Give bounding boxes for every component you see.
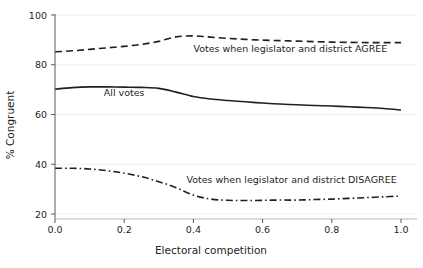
x-tick-label-0.6: 0.6: [255, 224, 270, 235]
series-annotation-1: All votes: [104, 87, 145, 98]
x-tick-label-0.0: 0.0: [47, 224, 62, 235]
y-tick-label-100: 100: [29, 10, 47, 21]
x-tick-label-0.8: 0.8: [324, 224, 339, 235]
y-tick-label-40: 40: [35, 159, 47, 170]
x-tick-label-0.4: 0.4: [186, 224, 201, 235]
x-tick-label-0.2: 0.2: [117, 224, 132, 235]
y-tick-label-80: 80: [35, 59, 47, 70]
y-tick-label-20: 20: [35, 209, 47, 220]
y-axis-title: % Congruent: [4, 91, 16, 160]
x-tick-label-1.0: 1.0: [393, 224, 408, 235]
chart-background: [0, 0, 423, 268]
y-tick-label-60: 60: [35, 109, 47, 120]
chart-figure: 204060801000.00.20.40.60.81.0 Votes when…: [0, 0, 423, 268]
line-chart-canvas: 204060801000.00.20.40.60.81.0 Votes when…: [0, 0, 423, 268]
series-annotation-2: Votes when legislator and district DISAG…: [186, 174, 396, 185]
series-annotation-0: Votes when legislator and district AGREE: [193, 43, 387, 54]
x-axis-title: Electoral competition: [155, 244, 267, 256]
